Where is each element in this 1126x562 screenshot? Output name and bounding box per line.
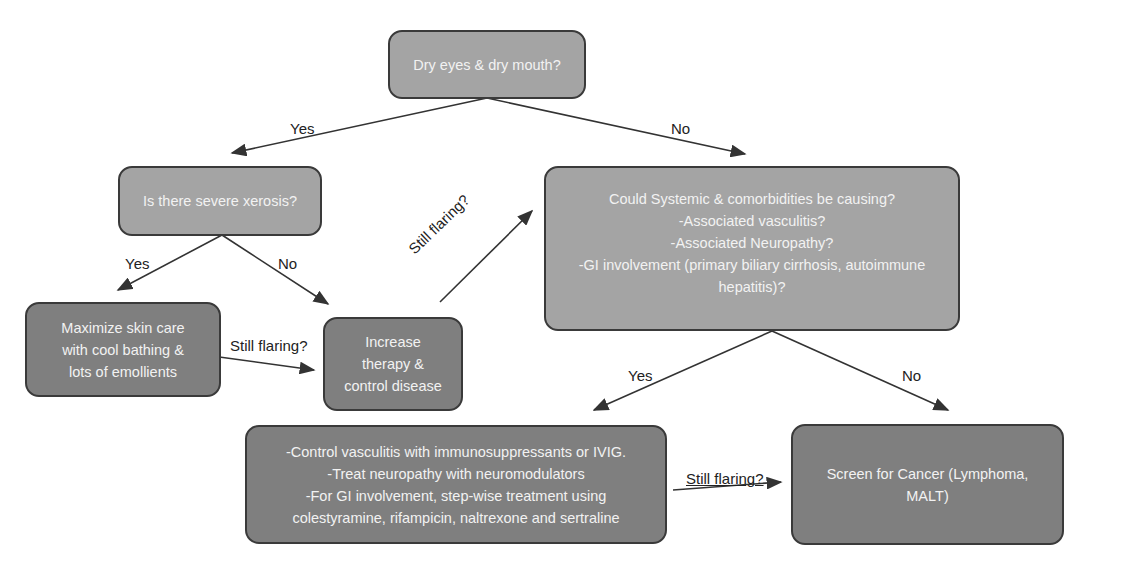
edge-systemic-no: [772, 331, 948, 410]
label-control-still-flaring: Still flaring?: [686, 470, 764, 487]
node-dry-eyes: Dry eyes & dry mouth?: [388, 30, 586, 99]
edge-dry-no: [487, 98, 745, 154]
label-systemic-yes: Yes: [628, 367, 652, 384]
edge-skin-still: [212, 356, 314, 370]
edge-dry-yes: [232, 98, 487, 153]
node-xerosis: Is there severe xerosis?: [118, 166, 322, 236]
edge-xerosis-no: [222, 235, 328, 304]
label-systemic-no: No: [902, 367, 921, 384]
edge-systemic-yes: [594, 331, 772, 410]
node-control-vasculitis: -Control vasculitis with immunosuppressa…: [245, 425, 667, 544]
label-skin-still-flaring: Still flaring?: [230, 337, 308, 354]
node-increase-therapy: Increase therapy & control disease: [323, 317, 463, 411]
label-dry-no: No: [671, 120, 690, 137]
label-xerosis-yes: Yes: [125, 255, 149, 272]
node-systemic: Could Systemic & comorbidities be causin…: [544, 166, 960, 331]
label-dry-yes: Yes: [290, 120, 314, 137]
label-xerosis-no: No: [278, 255, 297, 272]
node-skin-care: Maximize skin care with cool bathing & l…: [25, 302, 221, 397]
edge-increase-still: [440, 211, 532, 302]
node-screen-cancer: Screen for Cancer (Lymphoma, MALT): [791, 424, 1064, 545]
